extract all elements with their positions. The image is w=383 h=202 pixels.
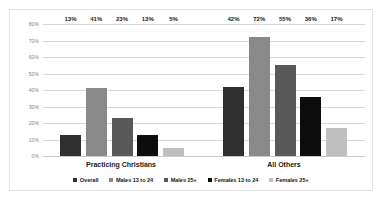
bar[interactable]: 13% (137, 135, 158, 156)
legend-item[interactable]: Overall (73, 177, 98, 183)
bar-slot: 55% (275, 24, 296, 156)
bar-slot: 36% (300, 24, 321, 156)
legend-swatch-icon (109, 178, 113, 182)
bar-slot: 13% (137, 24, 158, 156)
legend-label: Females 25+ (276, 177, 309, 183)
bar-value-label: 72% (253, 16, 265, 22)
bar-value-label: 13% (64, 16, 76, 22)
legend-label: Males 25+ (171, 177, 197, 183)
y-tick-label: 60% (29, 54, 39, 60)
category-label-all-others: All Others (206, 161, 362, 168)
bar-slot: 72% (249, 24, 270, 156)
bar[interactable]: 17% (326, 128, 347, 156)
y-tick-label: 70% (29, 38, 39, 44)
bar-value-label: 42% (227, 16, 239, 22)
bar-value-label: 5% (169, 16, 178, 22)
legend-item[interactable]: Females 13 to 24 (208, 177, 258, 183)
legend-label: Overall (80, 177, 99, 183)
y-tick-label: 50% (29, 71, 39, 77)
legend-swatch-icon (164, 178, 168, 182)
y-tick-label: 80% (29, 21, 39, 27)
y-tick-label: 30% (29, 104, 39, 110)
legend-item[interactable]: Males 25+ (164, 177, 197, 183)
bar-value-label: 23% (116, 16, 128, 22)
bar[interactable]: 23% (112, 118, 133, 156)
bar-slot: 42% (223, 24, 244, 156)
bar[interactable]: 41% (86, 88, 107, 156)
axis-baseline (43, 156, 365, 157)
y-tick-label: 10% (29, 137, 39, 143)
y-tick-label: 20% (29, 120, 39, 126)
bar[interactable]: 5% (163, 148, 184, 156)
bar-value-label: 55% (279, 16, 291, 22)
bar[interactable]: 42% (223, 87, 244, 156)
legend-item[interactable]: Males 13 to 24 (109, 177, 153, 183)
plot-area: 80%70%60%50%40%30%20%10%0% 13%41%23%13%5… (43, 24, 365, 156)
bar-slot: 41% (86, 24, 107, 156)
legend-swatch-icon (208, 178, 212, 182)
chart-container: 80%70%60%50%40%30%20%10%0% 13%41%23%13%5… (9, 9, 373, 191)
y-tick-label: 40% (29, 87, 39, 93)
legend-label: Females 13 to 24 (214, 177, 258, 183)
legend-swatch-icon (269, 178, 273, 182)
bar[interactable]: 72% (249, 37, 270, 156)
bar[interactable]: 13% (60, 135, 81, 156)
y-tick-label: 0% (32, 153, 39, 159)
chart-legend: OverallMales 13 to 24Males 25+Females 13… (10, 177, 372, 183)
legend-item[interactable]: Females 25+ (269, 177, 308, 183)
bar-slot: 23% (112, 24, 133, 156)
bar[interactable]: 36% (300, 97, 321, 156)
bar-group-all-others: 42%72%55%36%17% (223, 24, 347, 156)
bar-value-label: 13% (142, 16, 154, 22)
bar-value-label: 41% (90, 16, 102, 22)
bar-slot: 13% (60, 24, 81, 156)
bar-group-practicing-christians: 13%41%23%13%5% (60, 24, 184, 156)
bar[interactable]: 55% (275, 65, 296, 156)
bar-value-label: 36% (305, 16, 317, 22)
category-label-practicing-christians: Practicing Christians (43, 161, 199, 168)
legend-label: Males 13 to 24 (116, 177, 153, 183)
legend-swatch-icon (73, 178, 77, 182)
bar-slot: 17% (326, 24, 347, 156)
bar-slot: 5% (163, 24, 184, 156)
bar-value-label: 17% (330, 16, 342, 22)
